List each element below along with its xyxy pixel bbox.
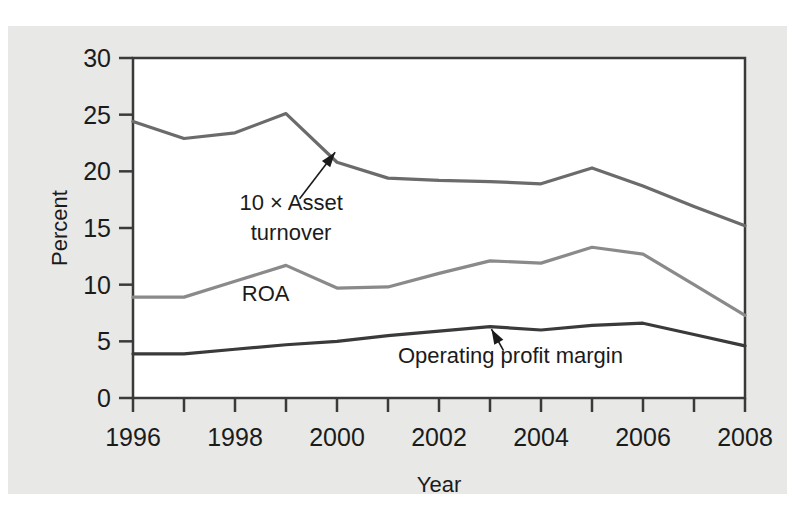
x-tick-label: 2000 [309, 423, 365, 451]
x-axis-title: Year [417, 472, 461, 497]
x-tick-label: 2002 [411, 423, 467, 451]
x-tick-label: 1996 [105, 423, 161, 451]
series-annotation-label: ROA [242, 281, 290, 306]
figure-container: 051015202530 199619982000200220042006200… [0, 0, 795, 517]
series-annotation-label: Operating profit margin [398, 343, 623, 368]
y-tick-label: 5 [97, 327, 111, 355]
y-tick-label: 10 [83, 271, 111, 299]
y-tick-label: 15 [83, 214, 111, 242]
y-axis-title: Percent [47, 190, 72, 266]
y-tick-label: 0 [97, 384, 111, 412]
y-tick-label: 30 [83, 44, 111, 72]
y-tick-label: 20 [83, 157, 111, 185]
x-tick-label: 2006 [615, 423, 671, 451]
x-tick-label: 2004 [513, 423, 569, 451]
series-annotation-label: 10 × Asset [239, 190, 342, 215]
y-tick-label: 25 [83, 101, 111, 129]
x-axis-ticks: 1996199820002002200420062008 [105, 398, 773, 451]
x-tick-label: 2008 [717, 423, 773, 451]
series-annotation-label-line2: turnover [251, 220, 332, 245]
line-chart: 051015202530 199619982000200220042006200… [0, 0, 795, 517]
x-tick-label: 1998 [207, 423, 263, 451]
y-axis-ticks: 051015202530 [83, 44, 133, 412]
